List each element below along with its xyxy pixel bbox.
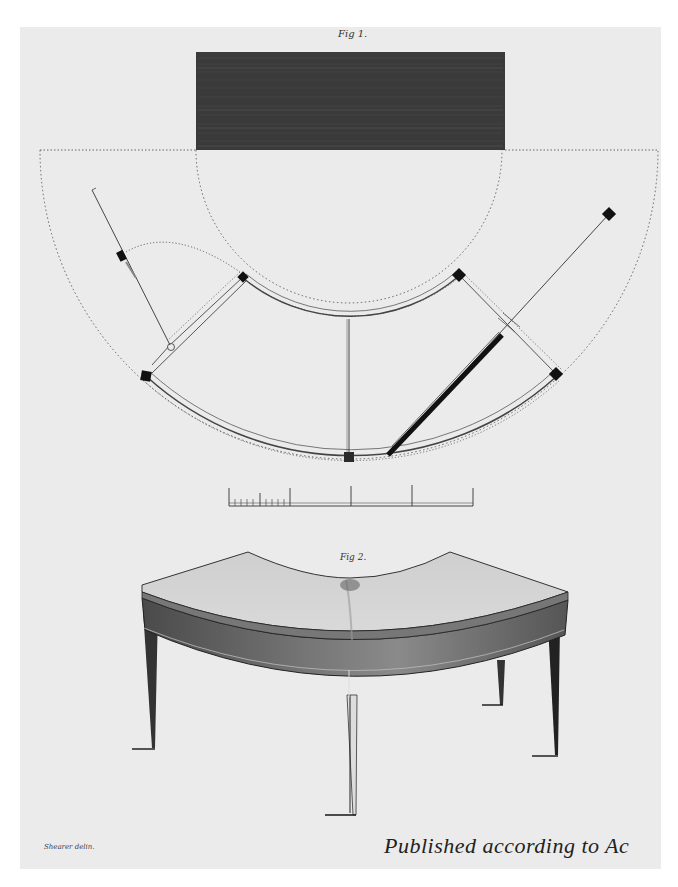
fig1-hinge-blocks (140, 207, 616, 462)
publication-imprint: Published according to Ac (384, 833, 629, 859)
fig1-plan (40, 150, 658, 461)
engraver-credit: Shearer delin. (44, 843, 95, 851)
engraving-drawing (0, 0, 678, 887)
figure-1-label: Fig 1. (338, 28, 367, 39)
fig1-top-leaf (196, 52, 505, 150)
fig2-table (132, 552, 568, 815)
figure-2-label: Fig 2. (340, 552, 366, 562)
scale-bar (229, 485, 473, 506)
